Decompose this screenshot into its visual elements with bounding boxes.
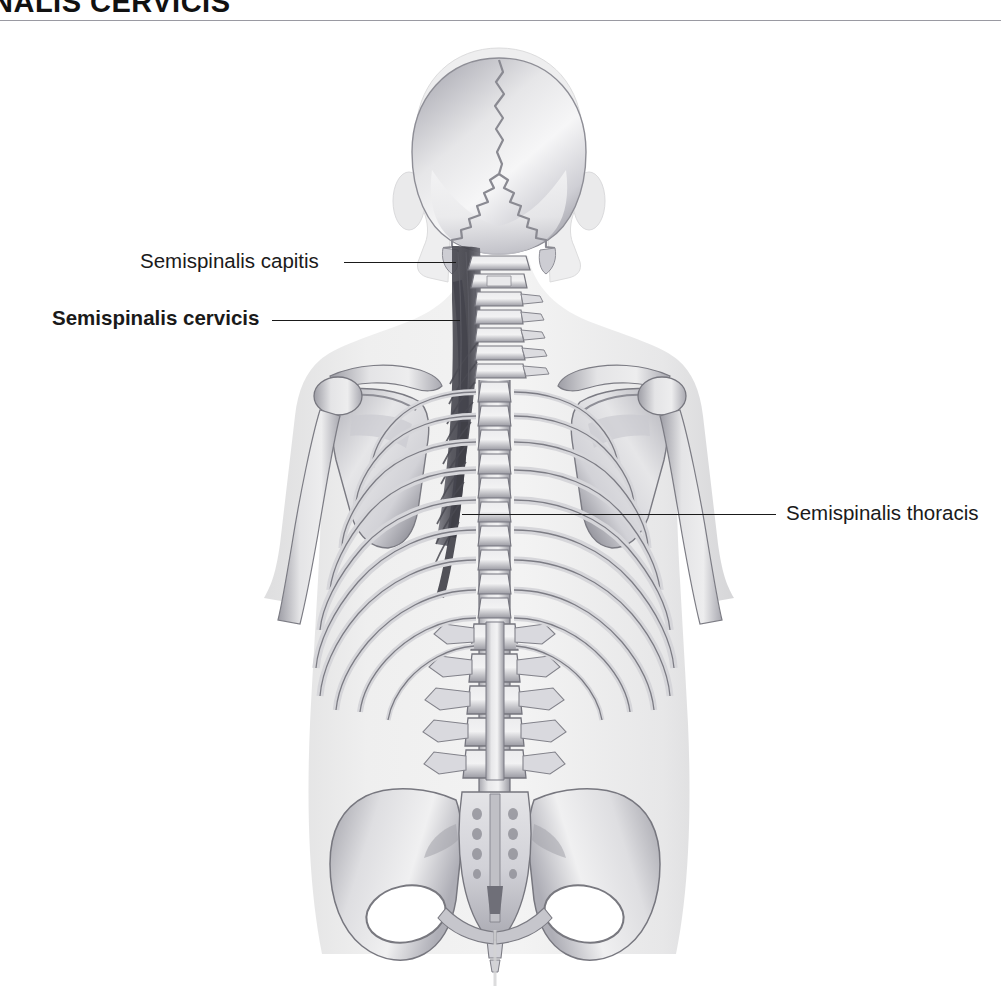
anatomy-figure: Semispinalis capitis Semispinalis cervic… bbox=[0, 24, 1001, 986]
leader-line-capitis bbox=[344, 262, 456, 263]
label-semispinalis-thoracis: Semispinalis thoracis bbox=[786, 503, 979, 524]
label-semispinalis-capitis: Semispinalis capitis bbox=[140, 251, 319, 272]
figure-page: NALIS CERVICIS bbox=[0, 0, 1001, 1002]
humeral-head-left bbox=[314, 377, 362, 415]
leader-line-thoracis bbox=[462, 514, 776, 515]
page-title: NALIS CERVICIS bbox=[0, 0, 231, 19]
header-divider bbox=[0, 20, 1001, 21]
leader-line-cervicis bbox=[272, 320, 460, 321]
humeral-head-right bbox=[638, 377, 686, 415]
label-semispinalis-cervicis: Semispinalis cervicis bbox=[52, 308, 259, 329]
